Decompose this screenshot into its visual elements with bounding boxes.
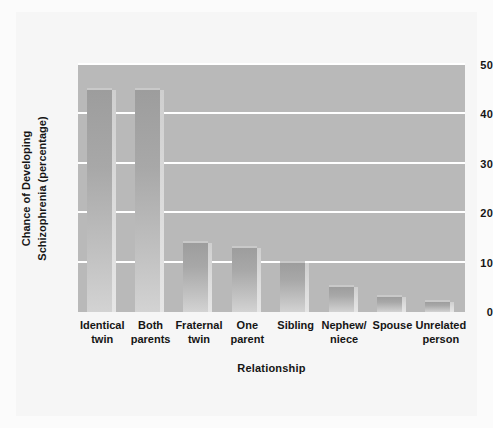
x-axis-ticks: Identical twinBoth parentsFraternal twin… [78, 318, 465, 358]
chart-figure: Chance of Developing Schizophrenia (perc… [0, 0, 493, 428]
bar [232, 248, 257, 312]
gridline [78, 63, 465, 65]
bar [377, 297, 402, 312]
bar [183, 243, 208, 312]
bar [135, 90, 160, 312]
bar [280, 263, 305, 312]
bar [329, 287, 354, 312]
plot-area [78, 65, 465, 312]
x-axis-title: Relationship [78, 362, 465, 374]
bar [425, 302, 450, 312]
x-tick-label: Unrelated person [411, 318, 471, 347]
bar [87, 90, 112, 312]
